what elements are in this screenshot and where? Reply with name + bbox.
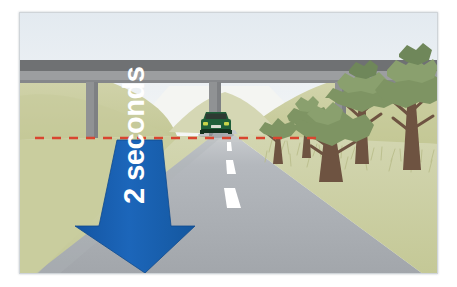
car-window bbox=[206, 114, 227, 120]
car-wheel-left bbox=[200, 130, 204, 134]
car-taillight-left bbox=[203, 122, 208, 126]
screenshot-root: Two second following distance illustrati… bbox=[0, 0, 457, 287]
bridge-pillar-left-shade bbox=[94, 82, 98, 140]
illustration-canvas: 2 seconds bbox=[19, 12, 438, 274]
car-plate bbox=[211, 125, 221, 128]
car-taillight-right bbox=[224, 122, 229, 126]
road-safety-illustration: Two second following distance illustrati… bbox=[19, 12, 438, 274]
car-wheel-right bbox=[228, 130, 232, 134]
distance-arrow-label: 2 seconds bbox=[118, 67, 150, 204]
car-bumper bbox=[201, 129, 231, 133]
